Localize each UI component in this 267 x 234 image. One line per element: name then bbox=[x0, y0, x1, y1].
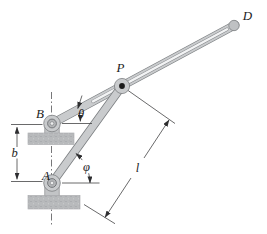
point-p-label: P bbox=[116, 60, 125, 75]
pin-p bbox=[119, 83, 125, 89]
dim-l-extension-bottom bbox=[84, 205, 115, 224]
dim-l-arrow-top bbox=[144, 120, 169, 158]
angle-phi-label: φ bbox=[83, 160, 90, 174]
ground-block-a bbox=[28, 196, 80, 210]
pin-b bbox=[48, 119, 57, 128]
pin-b-hole bbox=[50, 122, 54, 126]
dim-l-extension-top bbox=[125, 88, 175, 123]
angle-theta-label: θ bbox=[78, 107, 84, 121]
bar-bd-tip-cap bbox=[229, 20, 239, 30]
phi-arc-lower bbox=[89, 173, 90, 183]
point-a-label: A bbox=[41, 168, 50, 183]
slot bbox=[93, 29, 227, 101]
dim-l-label: l bbox=[136, 161, 140, 175]
mechanism-figure: b θ φ l D P B A bbox=[0, 0, 267, 234]
point-d-label: D bbox=[242, 8, 253, 23]
point-b-label: B bbox=[36, 106, 44, 121]
ground-block-b bbox=[28, 133, 74, 145]
phi-arc-upper bbox=[76, 154, 82, 161]
slotted-bar-bd bbox=[44, 20, 240, 132]
figure-canvas: b θ φ l D P B A bbox=[0, 0, 267, 234]
dim-b-label: b bbox=[11, 146, 17, 160]
dim-l-arrow-bottom bbox=[105, 178, 131, 218]
pin-a-hole bbox=[50, 181, 54, 185]
